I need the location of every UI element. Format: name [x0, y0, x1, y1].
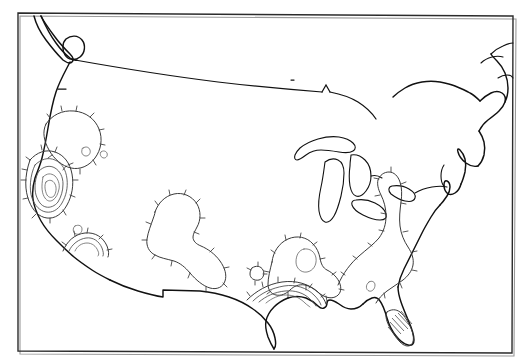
- hachure-ticks-southeast: [264, 233, 344, 301]
- hachure-ticks-socal: [62, 228, 112, 250]
- contour-florida-hatched: [386, 310, 413, 346]
- great-lakes: [295, 137, 447, 223]
- hachure-ticks-texas: [142, 190, 229, 292]
- usa-coastline: [33, 16, 513, 349]
- us-canada-border: [58, 60, 376, 119]
- map-frame: [18, 13, 516, 356]
- contour-texas-low: [142, 190, 229, 292]
- contour-southeast-low: [247, 233, 344, 301]
- hachure-ticks-pnw: [47, 106, 105, 174]
- map-root: [0, 0, 529, 364]
- contour-map-canvas: [0, 0, 529, 364]
- contour-pacific-northwest: [44, 106, 105, 174]
